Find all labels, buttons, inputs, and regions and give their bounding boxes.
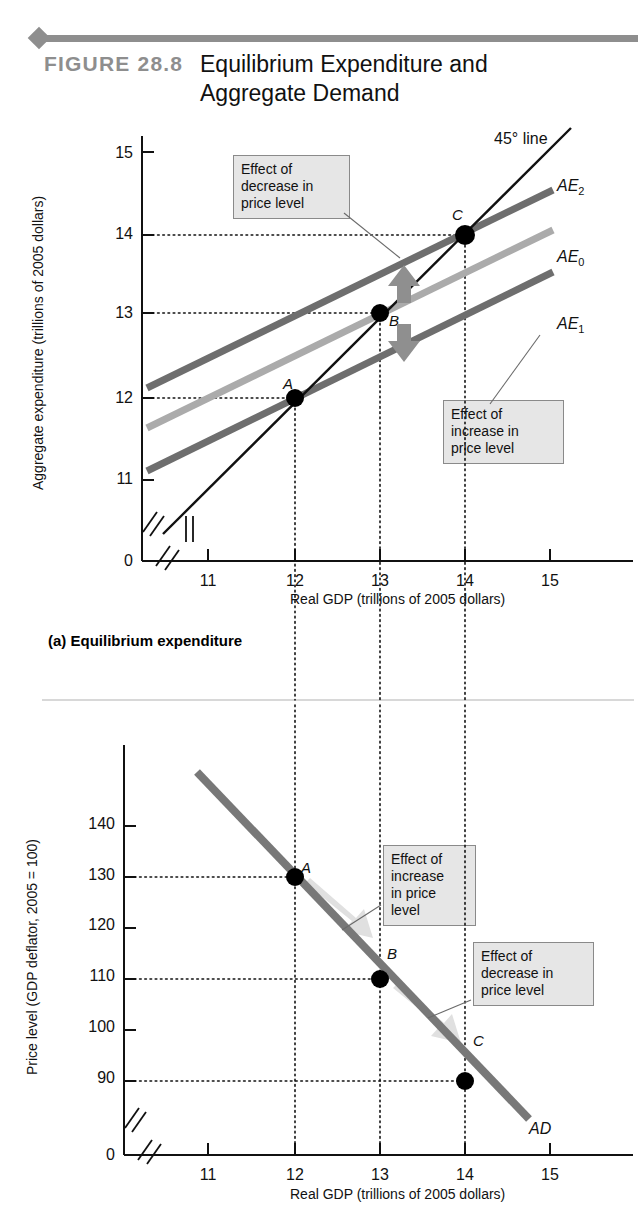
curve-ae1: [147, 272, 553, 471]
down-arrow: [388, 324, 420, 362]
panel-b-points: [286, 868, 474, 1090]
panel-b-point-c: [456, 1072, 474, 1090]
panel-a-gridlines: [142, 235, 468, 700]
panel-a-point-c: [455, 225, 475, 245]
figure-graphics: .axisline{stroke:#111;stroke-width:2;fil…: [0, 0, 641, 1227]
forty-five-degree-line: [163, 128, 571, 534]
curve-ae0: [147, 230, 553, 428]
panel-b-point-a: [286, 868, 304, 886]
panel-b-point-b: [371, 970, 389, 988]
panel-a-curves: [147, 128, 571, 534]
panel-b-axes: [124, 745, 633, 1164]
panel-b-curve: [197, 772, 529, 1119]
panel-a-point-a: [286, 389, 304, 407]
curve-ae2: [147, 190, 553, 388]
panel-a-point-b: [371, 304, 389, 322]
curve-ad: [197, 772, 529, 1119]
panel-b-gridlines: [124, 705, 469, 1155]
down-right-arrow-upper: [305, 878, 373, 938]
